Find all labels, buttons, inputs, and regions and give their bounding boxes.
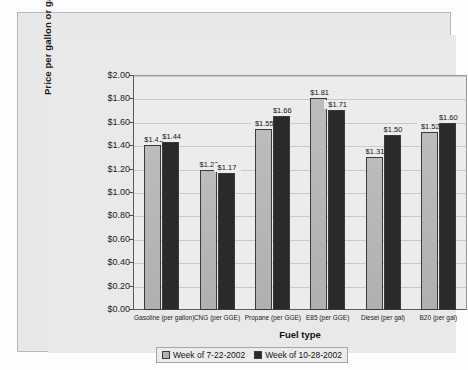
bar <box>200 170 217 310</box>
legend-swatch-icon <box>162 351 170 359</box>
bar <box>439 123 456 310</box>
bar-value-label: $1.81 <box>306 88 333 97</box>
chart-canvas: Price per gallon or gasoline equivalent … <box>48 35 456 353</box>
y-axis-tick-mark <box>129 262 133 263</box>
x-axis-tick-label: CNG (per GGE) <box>189 314 244 321</box>
legend-item-series-1: Week of 7-22-2002 <box>162 350 245 360</box>
y-axis-tick-label: $1.80 <box>82 93 130 103</box>
bar-series-container: $1.41$1.44$1.20$1.17$1.55$1.66$1.81$1.71… <box>134 76 466 310</box>
y-axis-tick-label: $0.80 <box>82 210 130 220</box>
y-axis-tick-label: $0.60 <box>82 234 130 244</box>
bar-value-label: $1.71 <box>324 100 351 109</box>
y-axis-tick-label: $0.20 <box>82 281 130 291</box>
bar-value-label: $1.44 <box>158 132 185 141</box>
chart-page: Price per gallon or gasoline equivalent … <box>0 0 468 370</box>
y-axis-tick-mark <box>129 75 133 76</box>
y-axis-tick-label: $1.60 <box>82 117 130 127</box>
x-axis-tick-label: B20 (per gal) <box>411 314 466 321</box>
bar-value-label: $1.50 <box>380 125 407 134</box>
bar <box>384 135 401 311</box>
bar <box>328 110 345 310</box>
y-axis-tick-mark <box>129 145 133 146</box>
y-axis-tick-mark <box>129 98 133 99</box>
y-axis-tick-mark <box>129 122 133 123</box>
y-axis-tick-label: $1.00 <box>82 187 130 197</box>
bar <box>255 129 272 310</box>
chart-legend: Week of 7-22-2002 Week of 10-28-2002 <box>156 347 348 363</box>
y-axis-tick-label: $0.40 <box>82 257 130 267</box>
bar-value-label: $1.66 <box>269 106 296 115</box>
legend-label: Week of 10-28-2002 <box>265 350 342 360</box>
bar <box>310 98 327 310</box>
page-border: Price per gallon or gasoline equivalent … <box>17 12 451 352</box>
bar-value-label: $1.17 <box>214 163 241 172</box>
y-axis-tick-label: $1.20 <box>82 164 130 174</box>
y-axis-tick-mark <box>129 309 133 310</box>
y-axis-tick-label: $0.00 <box>82 304 130 314</box>
x-axis-tick-label: Diesel (per gal) <box>355 314 410 321</box>
bar <box>421 132 438 310</box>
bar <box>162 142 179 310</box>
bar <box>366 157 383 310</box>
x-axis-title: Fuel type <box>133 329 467 340</box>
legend-label: Week of 7-22-2002 <box>173 350 245 360</box>
x-axis-tick-labels: Gasoline (per gallon)CNG (per GGE)Propan… <box>134 314 466 328</box>
bar <box>273 116 290 310</box>
legend-swatch-icon <box>254 351 262 359</box>
y-axis-tick-label: $2.00 <box>82 70 130 80</box>
y-axis-tick-mark <box>129 286 133 287</box>
x-axis-tick-label: Gasoline (per gallon) <box>134 314 189 321</box>
y-axis-tick-label: $1.40 <box>82 140 130 150</box>
y-axis-title: Price per gallon or gasoline equivalent <box>42 0 53 131</box>
bar-value-label: $1.60 <box>435 113 462 122</box>
x-axis-tick-label: E85 (per GGE) <box>300 314 355 321</box>
y-axis-tick-mark <box>129 239 133 240</box>
y-axis-tick-mark <box>129 192 133 193</box>
x-axis-tick-label: Propane (per GGE) <box>245 314 300 321</box>
legend-item-series-2: Week of 10-28-2002 <box>254 350 342 360</box>
y-axis-tick-labels: $0.00$0.20$0.40$0.60$0.80$1.00$1.20$1.40… <box>78 75 130 310</box>
y-axis-tick-mark <box>129 215 133 216</box>
y-axis-tick-mark <box>129 169 133 170</box>
bar <box>144 145 161 310</box>
bar <box>218 173 235 310</box>
